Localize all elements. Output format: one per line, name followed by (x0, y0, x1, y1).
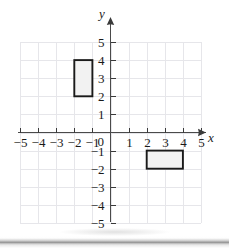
x-tick-label: 4 (180, 135, 187, 150)
coordinate-plane-svg: −5−4−3−2−11234554321−1−2−3−4−5 0 x y (0, 0, 229, 248)
x-tick-label: −5 (14, 135, 28, 150)
y-tick-label: 3 (98, 71, 105, 86)
x-tick-label: −4 (32, 135, 46, 150)
origin-label: 0 (98, 134, 105, 149)
axis-lines (18, 17, 206, 222)
page-edge-smudge (60, 228, 170, 236)
y-tick-label: 2 (98, 89, 105, 104)
x-tick-label: 2 (144, 135, 151, 150)
y-tick-label: 1 (98, 107, 105, 122)
rectangle-upper-left (74, 60, 92, 96)
rectangle-lower-right (147, 151, 183, 169)
y-tick-label: −2 (91, 162, 105, 177)
y-tick-label: −3 (91, 180, 105, 195)
x-tick-label: 3 (162, 135, 169, 150)
y-axis-arrowhead (107, 17, 114, 25)
x-tick-label: −3 (50, 135, 64, 150)
x-tick-label: 5 (198, 135, 205, 150)
y-axis-label: y (97, 6, 105, 21)
x-tick-label: −2 (68, 135, 82, 150)
x-tick-label: 1 (126, 135, 133, 150)
x-axis-label: x (207, 130, 214, 145)
y-tick-label: 4 (98, 53, 105, 68)
y-tick-label: −4 (91, 198, 105, 213)
page-bottom-edge (0, 236, 229, 248)
coordinate-plane-figure: −5−4−3−2−11234554321−1−2−3−4−5 0 x y (0, 0, 229, 248)
y-tick-label: 5 (98, 35, 105, 50)
